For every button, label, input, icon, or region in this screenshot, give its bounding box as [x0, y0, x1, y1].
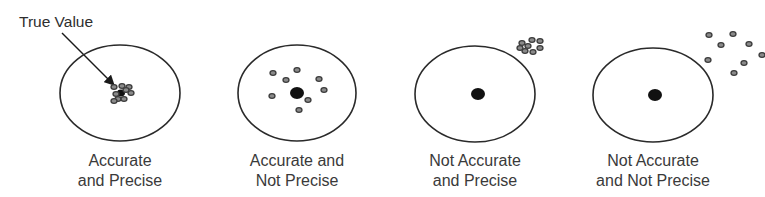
bullseye-icon: [648, 89, 662, 101]
targets-group: Accurateand PreciseAccurate andNot Preci…: [60, 32, 765, 189]
shot-dot-icon: [111, 99, 117, 104]
true-value-annotation: True Value: [19, 13, 114, 85]
target-accurate-precise: Accurateand Precise: [60, 45, 180, 189]
shot-dot-icon: [283, 78, 289, 83]
shot-dot-icon: [296, 108, 302, 113]
target-label: and Precise: [78, 172, 163, 189]
shot-dot-icon: [706, 33, 712, 38]
target-label: Accurate: [88, 152, 151, 169]
shot-dot-icon: [705, 58, 711, 63]
bullseye-icon: [290, 87, 304, 99]
shot-dot-icon: [123, 88, 129, 93]
shot-dot-icon: [741, 61, 747, 66]
shot-dot-icon: [731, 71, 737, 76]
true-value-label: True Value: [19, 13, 93, 30]
shot-dot-icon: [530, 50, 536, 55]
shot-dot-icon: [121, 97, 127, 102]
target-not-accurate-not-precise: Not Accurateand Not Precise: [593, 32, 765, 189]
shot-dot-icon: [718, 43, 724, 48]
shot-dot-icon: [113, 92, 119, 97]
target-label: and Precise: [433, 172, 518, 189]
shot-dot-icon: [746, 42, 752, 47]
target-label: and Not Precise: [596, 172, 710, 189]
target-label: Accurate and: [250, 152, 344, 169]
arrow-icon: [62, 33, 114, 85]
shot-dot-icon: [294, 68, 300, 73]
shot-dot-icon: [519, 41, 525, 46]
shot-dot-icon: [321, 88, 327, 93]
shot-dot-icon: [305, 98, 311, 103]
target-label: Not Accurate: [429, 152, 521, 169]
shot-dot-icon: [269, 94, 275, 99]
target-label: Not Precise: [256, 172, 339, 189]
target-accurate-not-precise: Accurate andNot Precise: [238, 45, 356, 189]
shot-dot-icon: [517, 46, 523, 51]
shot-dot-icon: [525, 44, 531, 49]
shot-dot-icon: [111, 85, 117, 90]
target-not-accurate-precise: Not Accurateand Precise: [415, 38, 543, 189]
shot-dot-icon: [759, 53, 765, 58]
shot-dot-icon: [316, 77, 322, 82]
shot-dot-icon: [529, 38, 535, 43]
bullseye-icon: [471, 88, 485, 100]
shot-dot-icon: [270, 71, 276, 76]
shot-dot-icon: [537, 46, 543, 51]
accuracy-precision-diagram: True Value Accurateand PreciseAccurate a…: [0, 0, 765, 197]
shot-dot-icon: [730, 32, 736, 37]
shot-dot-icon: [537, 39, 543, 44]
target-label: Not Accurate: [607, 152, 699, 169]
